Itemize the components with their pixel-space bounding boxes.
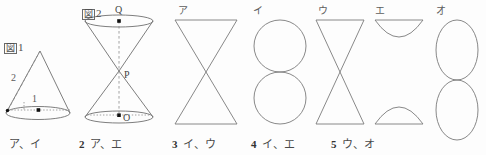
option-d-shape xyxy=(371,6,427,130)
point-o-label: O xyxy=(123,113,130,123)
figure-1-label: 図1 xyxy=(4,42,24,54)
option-b-label: イ xyxy=(253,6,263,16)
dome-shape-outline xyxy=(375,107,423,124)
answer-choice-5-text: ウ、オ xyxy=(342,138,375,150)
figure-1-label-number: 1 xyxy=(18,41,24,53)
answer-choice-4-number: 4 xyxy=(251,138,257,150)
upper-circle xyxy=(254,20,306,72)
point-p-label: P xyxy=(124,70,130,80)
option-c-panel: ウ xyxy=(312,6,368,130)
figure-2-label-number: 2 xyxy=(96,7,102,19)
bowl-shape-outline xyxy=(375,20,423,37)
answer-choice-3-number: 3 xyxy=(172,138,178,150)
option-d-label: エ xyxy=(375,6,385,16)
answer-choice-row: ア、イ 2ア、エ 3イ、ウ 4イ、エ 5ウ、オ xyxy=(0,131,486,155)
figure-2-label: 図2 xyxy=(82,8,102,20)
figure-2-double-cone-drawing xyxy=(78,4,160,130)
figure-1-panel: 図1 2 1 xyxy=(0,18,78,130)
option-d-panel: エ xyxy=(371,6,427,130)
point-q-marker xyxy=(117,19,121,23)
figure-1-radius-dimension: 1 xyxy=(32,94,37,104)
answer-choice-1[interactable]: ア、イ xyxy=(4,135,41,151)
answer-choice-3-text: イ、ウ xyxy=(183,138,216,150)
figure-2-label-box: 図 xyxy=(82,9,95,20)
answer-choice-1-text: ア、イ xyxy=(9,138,41,150)
option-c-label: ウ xyxy=(318,6,328,16)
point-q-label: Q xyxy=(115,5,122,15)
lower-circle xyxy=(254,72,306,124)
answer-choice-4[interactable]: 4イ、エ xyxy=(251,135,295,151)
option-a-panel: ア xyxy=(170,6,242,130)
option-e-label: オ xyxy=(436,6,446,16)
worksheet-canvas: 図1 2 1 図2 xyxy=(0,0,486,155)
figure-1-label-box: 図 xyxy=(4,43,17,54)
cone-rim-marker xyxy=(6,109,9,112)
bowtie-wide-outline xyxy=(175,20,237,124)
figure-1-slant-dimension: 2 xyxy=(11,73,16,83)
option-e-shape xyxy=(430,6,484,130)
figure-2-panel: 図2 Q P O xyxy=(78,4,160,130)
option-a-label: ア xyxy=(178,6,188,16)
point-o-marker xyxy=(117,113,121,117)
option-b-shape xyxy=(249,6,311,130)
answer-choice-3[interactable]: 3イ、ウ xyxy=(172,135,216,151)
answer-choice-2-text: ア、エ xyxy=(90,138,122,150)
cone-base-center-marker xyxy=(37,108,41,112)
option-a-shape xyxy=(170,6,242,130)
option-b-panel: イ xyxy=(249,6,311,130)
answer-choice-2[interactable]: 2ア、エ xyxy=(79,135,122,151)
answer-choice-4-text: イ、エ xyxy=(262,138,295,150)
upper-ellipse xyxy=(436,20,478,80)
option-e-panel: オ xyxy=(430,6,484,130)
option-c-shape xyxy=(312,6,368,130)
answer-choice-5[interactable]: 5ウ、オ xyxy=(331,135,375,151)
answer-choice-5-number: 5 xyxy=(331,138,337,150)
answer-choice-2-number: 2 xyxy=(79,138,85,150)
bowtie-narrow-outline xyxy=(316,20,364,124)
